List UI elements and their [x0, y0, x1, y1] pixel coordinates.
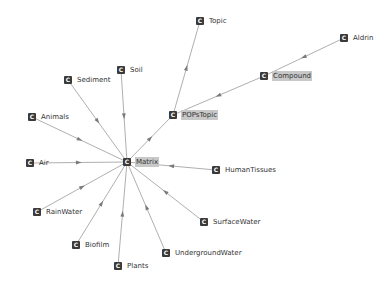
class-icon: C: [340, 34, 348, 42]
arrowhead-icon: [216, 93, 222, 97]
node-label: HumanTissues: [224, 165, 277, 175]
arrowhead-icon: [120, 211, 124, 217]
class-icon: C: [28, 113, 36, 121]
arrowhead-icon: [145, 205, 149, 211]
node-compound[interactable]: CCompound: [260, 71, 312, 82]
class-icon: C: [26, 159, 34, 167]
class-icon: C: [72, 241, 80, 249]
node-label: POPsTopic: [181, 110, 218, 120]
node-surfacewater[interactable]: CSurfaceWater: [200, 217, 261, 228]
node-label: Sediment: [76, 75, 111, 85]
node-label: Compound: [272, 71, 312, 81]
class-icon: C: [33, 208, 41, 216]
class-icon: C: [200, 218, 208, 226]
node-animals[interactable]: CAnimals: [28, 112, 70, 123]
node-rainwater[interactable]: CRainWater: [33, 207, 83, 218]
arrowhead-icon: [76, 161, 82, 165]
node-label: RainWater: [45, 207, 83, 217]
node-label: SurfaceWater: [212, 217, 261, 227]
node-biofilm[interactable]: CBiofilm: [72, 240, 110, 251]
node-label: Matrix: [135, 157, 159, 167]
class-icon: C: [64, 76, 72, 84]
node-label: Aldrin: [352, 33, 374, 43]
node-undergroundwater[interactable]: CUndergroundWater: [162, 248, 243, 259]
class-icon: C: [212, 166, 220, 174]
node-aldrin[interactable]: CAldrin: [340, 33, 374, 44]
graph-canvas[interactable]: [0, 0, 391, 287]
arrowhead-icon: [94, 118, 99, 124]
class-icon: C: [260, 72, 268, 80]
node-label: Biofilm: [84, 240, 110, 250]
node-label: Air: [38, 158, 50, 168]
node-humantissues[interactable]: CHumanTissues: [212, 165, 277, 176]
node-label: Animals: [40, 112, 70, 122]
arrowhead-icon: [99, 201, 104, 207]
class-icon: C: [123, 158, 131, 166]
arrowhead-icon: [76, 137, 82, 141]
class-icon: C: [196, 17, 204, 25]
class-icon: C: [162, 249, 170, 257]
node-label: UndergroundWater: [174, 248, 243, 258]
class-icon: C: [117, 66, 125, 74]
class-icon: C: [114, 262, 122, 270]
node-soil[interactable]: CSoil: [117, 65, 144, 76]
node-air[interactable]: CAir: [26, 158, 50, 169]
node-label: Topic: [208, 16, 228, 26]
arrowhead-icon: [79, 185, 85, 189]
node-label: Plants: [126, 261, 149, 271]
node-label: Soil: [129, 65, 144, 75]
node-sediment[interactable]: CSediment: [64, 75, 111, 86]
node-plants[interactable]: CPlants: [114, 261, 149, 272]
arrowhead-icon: [301, 54, 307, 58]
arrowhead-icon: [184, 65, 188, 71]
node-popstopic[interactable]: CPOPsTopic: [169, 110, 218, 121]
node-topic[interactable]: CTopic: [196, 16, 228, 27]
node-matrix[interactable]: CMatrix: [123, 157, 159, 168]
class-icon: C: [169, 111, 177, 119]
arrowhead-icon: [168, 164, 174, 168]
